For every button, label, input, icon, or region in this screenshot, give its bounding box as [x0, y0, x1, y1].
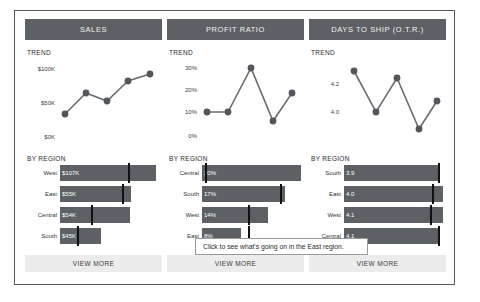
bar-row[interactable]: East 4.0 — [311, 186, 446, 202]
bar-chart-profit-ratio: Central 20% South 17% — [169, 165, 304, 249]
trend-section-label: TREND — [169, 49, 193, 56]
reference-line — [430, 205, 432, 225]
byregion-section-label: BY REGION — [311, 155, 350, 162]
bar-category: South — [27, 233, 57, 239]
bar-row[interactable]: Central 20% — [169, 165, 304, 181]
bar-track: 4.1 — [344, 207, 446, 223]
reference-line — [438, 226, 440, 246]
bar-value: 4.0 — [346, 191, 354, 197]
view-more-label: VIEW MORE — [73, 260, 115, 267]
bar-track: $45K — [60, 228, 162, 244]
bar-row[interactable]: East $55K — [27, 186, 162, 202]
y-tick: $50K — [27, 100, 55, 106]
bar-track: 4.0 — [344, 186, 446, 202]
bar-track: $54K — [60, 207, 162, 223]
bar-category: West — [311, 212, 341, 218]
reference-line — [91, 205, 93, 225]
reference-line — [122, 184, 124, 204]
bar-chart-sales: West $107K East $55K — [27, 165, 162, 249]
bar-fill: 17% — [202, 186, 285, 202]
trend-line-svg — [341, 59, 445, 149]
view-more-button-days-to-ship[interactable]: VIEW MORE — [309, 255, 446, 272]
view-more-button-profit-ratio[interactable]: VIEW MORE — [167, 255, 304, 272]
bar-value: $54K — [62, 212, 76, 218]
panel-title: DAYS TO SHIP (O.T.R.) — [331, 25, 423, 34]
y-tick: 30% — [169, 65, 197, 71]
reference-line — [248, 205, 250, 225]
reference-line — [77, 226, 79, 246]
bar-category: South — [311, 170, 341, 176]
panel-title: SALES — [80, 25, 107, 34]
byregion-section-label: BY REGION — [27, 155, 66, 162]
bar-category: West — [27, 170, 57, 176]
y-tick: 10% — [169, 109, 197, 115]
trend-line-svg — [199, 59, 303, 149]
bar-row[interactable]: West 4.1 — [311, 207, 446, 223]
bar-row[interactable]: South 17% — [169, 186, 304, 202]
trend-chart-sales: $100K $50K $0K — [27, 59, 162, 149]
y-tick: 20% — [169, 87, 197, 93]
bar-row[interactable]: Central $54K — [27, 207, 162, 223]
y-tick: 4.0 — [311, 109, 339, 115]
bar-track: 14% — [202, 207, 304, 223]
reference-line — [438, 163, 440, 183]
byregion-section-label: BY REGION — [169, 155, 208, 162]
reference-line — [432, 184, 434, 204]
bar-fill: 14% — [202, 207, 268, 223]
tooltip-text: Click to see what's going on in the East… — [203, 243, 344, 250]
bar-row[interactable]: West 14% — [169, 207, 304, 223]
region-tooltip: Click to see what's going on in the East… — [195, 238, 368, 255]
bar-fill: $45K — [60, 228, 101, 244]
bar-fill: 20% — [202, 165, 301, 181]
bar-value: $107K — [62, 170, 79, 176]
panel-header-profit-ratio[interactable]: PROFIT RATIO — [167, 19, 304, 40]
bar-row[interactable]: South 3.9 — [311, 165, 446, 181]
panel-header-sales[interactable]: SALES — [25, 19, 162, 40]
bar-track: $55K — [60, 186, 162, 202]
bar-value: 4.1 — [346, 212, 354, 218]
panel-header-days-to-ship[interactable]: DAYS TO SHIP (O.T.R.) — [309, 19, 446, 40]
bar-fill: 3.9 — [344, 165, 440, 181]
bar-row[interactable]: South $45K — [27, 228, 162, 244]
view-more-button-sales[interactable]: VIEW MORE — [25, 255, 162, 272]
bar-value: $45K — [62, 233, 76, 239]
bar-fill: 4.0 — [344, 186, 443, 202]
bar-category: Central — [169, 170, 199, 176]
view-more-label: VIEW MORE — [215, 260, 257, 267]
reference-line — [128, 163, 130, 183]
panel-sales: SALES TREND $100K $50K $0K BY REGION — [25, 19, 162, 278]
reference-line — [205, 163, 207, 183]
bar-fill: $55K — [60, 186, 131, 202]
trend-section-label: TREND — [311, 49, 335, 56]
bar-value: $55K — [62, 191, 76, 197]
bar-track: $107K — [60, 165, 162, 181]
bar-fill: $107K — [60, 165, 156, 181]
bar-value: 17% — [204, 191, 216, 197]
trend-chart-days-to-ship: 4.2 4.0 — [311, 59, 446, 149]
bar-chart-days-to-ship: South 3.9 East 4.0 — [311, 165, 446, 249]
view-more-label: VIEW MORE — [357, 260, 399, 267]
bar-track: 17% — [202, 186, 304, 202]
y-tick: 0% — [169, 133, 197, 139]
dashboard-screenshot: SALES TREND $100K $50K $0K BY REGION — [0, 0, 480, 302]
trend-section-label: TREND — [27, 49, 51, 56]
bar-category: East — [27, 191, 57, 197]
bar-category: Central — [27, 212, 57, 218]
bar-category: West — [169, 212, 199, 218]
bar-fill: 4.1 — [344, 207, 443, 223]
bar-category: East — [311, 191, 341, 197]
bar-track: 20% — [202, 165, 304, 181]
bar-value: 3.9 — [346, 170, 354, 176]
trend-chart-profit-ratio: 30% 20% 10% 0% — [169, 59, 304, 149]
bar-track: 3.9 — [344, 165, 446, 181]
y-tick: 4.2 — [311, 81, 339, 87]
bar-value: 14% — [204, 212, 216, 218]
y-tick: $100K — [27, 66, 55, 72]
reference-line — [280, 184, 282, 204]
panel-title: PROFIT RATIO — [206, 25, 265, 34]
bar-row[interactable]: West $107K — [27, 165, 162, 181]
trend-line-svg — [57, 59, 161, 149]
y-tick: $0K — [27, 134, 55, 140]
bar-category: South — [169, 191, 199, 197]
bar-fill: $54K — [60, 207, 130, 223]
